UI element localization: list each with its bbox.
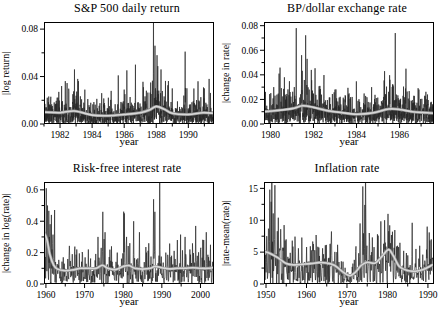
svg-text:1982: 1982 bbox=[304, 130, 323, 140]
svg-text:1980: 1980 bbox=[261, 130, 280, 140]
svg-text:1982: 1982 bbox=[51, 130, 70, 140]
plot-sp500: 198219841986198819900.000.040.08 bbox=[0, 0, 220, 160]
svg-text:0.00: 0.00 bbox=[21, 119, 38, 129]
svg-text:1970: 1970 bbox=[75, 290, 94, 300]
chart-panel-bp-dollar: BP/dollar exchange rate |change in rate|… bbox=[220, 0, 440, 160]
svg-text:0: 0 bbox=[253, 279, 258, 289]
svg-text:5: 5 bbox=[253, 247, 258, 257]
svg-text:0.00: 0.00 bbox=[241, 119, 258, 129]
svg-text:1960: 1960 bbox=[36, 290, 55, 300]
plot-bp-dollar: 19801982198419860.000.020.040.060.08 bbox=[220, 0, 440, 160]
svg-text:0.4: 0.4 bbox=[26, 217, 38, 227]
svg-text:1984: 1984 bbox=[347, 130, 366, 140]
chart-panel-sp500: S&P 500 daily return |log return| year 1… bbox=[0, 0, 220, 160]
svg-text:0.0: 0.0 bbox=[26, 279, 38, 289]
x-axis-ticks: 1980198219841986 bbox=[261, 124, 421, 140]
svg-text:2000: 2000 bbox=[191, 290, 210, 300]
series-sp500 bbox=[44, 11, 214, 124]
svg-text:15: 15 bbox=[249, 184, 259, 194]
svg-text:1950: 1950 bbox=[257, 290, 276, 300]
plot-inflation: 19501960197019801990051015 bbox=[220, 160, 440, 320]
svg-text:1980: 1980 bbox=[378, 290, 397, 300]
svg-text:0.08: 0.08 bbox=[241, 21, 258, 31]
svg-text:1986: 1986 bbox=[115, 130, 134, 140]
svg-text:1990: 1990 bbox=[179, 130, 198, 140]
y-axis-ticks: 0.000.020.040.060.08 bbox=[241, 21, 264, 129]
y-axis-ticks: 051015 bbox=[249, 184, 265, 290]
svg-text:1990: 1990 bbox=[418, 290, 437, 300]
svg-text:10: 10 bbox=[249, 216, 259, 226]
plot-riskfree: 196019701980199020000.00.20.40.6 bbox=[0, 160, 220, 320]
svg-text:0.02: 0.02 bbox=[241, 95, 258, 105]
svg-text:1970: 1970 bbox=[337, 290, 356, 300]
chart-panel-riskfree: Risk-free interest rate |change in log(r… bbox=[0, 160, 220, 320]
svg-text:0.6: 0.6 bbox=[26, 185, 38, 195]
svg-text:1984: 1984 bbox=[83, 130, 102, 140]
svg-text:1960: 1960 bbox=[297, 290, 316, 300]
volatility-figure: S&P 500 daily return |log return| year 1… bbox=[0, 0, 440, 320]
svg-text:1990: 1990 bbox=[152, 290, 171, 300]
svg-text:0.04: 0.04 bbox=[21, 72, 38, 82]
x-axis-ticks: 19601970198019902000 bbox=[36, 284, 210, 300]
x-axis-ticks: 19821984198619881990 bbox=[44, 124, 204, 140]
svg-text:1980: 1980 bbox=[114, 290, 133, 300]
svg-text:0.08: 0.08 bbox=[21, 24, 38, 34]
svg-text:0.04: 0.04 bbox=[241, 70, 258, 80]
y-axis-ticks: 0.000.040.08 bbox=[21, 24, 44, 129]
svg-text:1986: 1986 bbox=[390, 130, 409, 140]
y-axis-ticks: 0.00.20.40.6 bbox=[26, 185, 44, 289]
svg-text:0.06: 0.06 bbox=[241, 46, 258, 56]
chart-panel-inflation: Inflation rate |rate-mean(rate)| year 19… bbox=[220, 160, 440, 320]
svg-text:0.2: 0.2 bbox=[26, 248, 38, 258]
x-axis-ticks: 19501960197019801990 bbox=[257, 284, 438, 300]
svg-text:1988: 1988 bbox=[147, 130, 166, 140]
